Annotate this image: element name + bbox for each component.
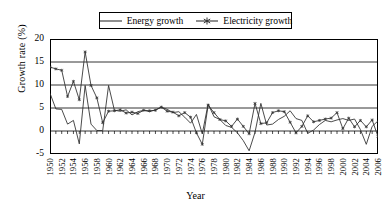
x-tick-label: 2004 — [362, 158, 371, 176]
x-tick-label: 1970 — [163, 158, 172, 176]
x-tick-label: 2006 — [374, 158, 383, 176]
x-tick-label: 1998 — [327, 158, 336, 176]
x-tick-label: 1962 — [116, 158, 125, 176]
x-tick-label: 1980 — [222, 158, 231, 176]
x-tick-label: 1966 — [140, 158, 149, 176]
x-tick-label: 1950 — [46, 158, 55, 176]
x-tick-label: 1992 — [292, 158, 301, 176]
x-tick-label: 1972 — [175, 158, 184, 176]
x-tick-label: 1990 — [280, 158, 289, 176]
x-tick-label: 1974 — [187, 158, 196, 176]
x-tick-label: 1994 — [304, 158, 313, 176]
x-tick-label: 2002 — [351, 158, 360, 176]
x-tick-label: 1956 — [81, 158, 90, 176]
growth-rate-line-chart: Energy growth Electricity growth Growth … — [0, 0, 391, 207]
x-tick-label: 1996 — [315, 158, 324, 176]
x-tick-label: 1964 — [128, 158, 137, 176]
x-tick-label: 1954 — [69, 158, 78, 176]
x-tick-label: 1984 — [245, 158, 254, 176]
x-tick-label: 1968 — [151, 158, 160, 176]
x-tick-label: 1986 — [257, 158, 266, 176]
x-tick-label: 1960 — [105, 158, 114, 176]
x-tick-label: 1976 — [198, 158, 207, 176]
x-tick-label: 1982 — [233, 158, 242, 176]
x-axis-tick-labels: 1950195219541956195819601962196419661968… — [0, 0, 391, 207]
x-tick-label: 1978 — [210, 158, 219, 176]
x-tick-label: 2000 — [339, 158, 348, 176]
x-tick-label: 1988 — [269, 158, 278, 176]
x-axis-title: Year — [0, 190, 391, 201]
x-tick-label: 1952 — [58, 158, 67, 176]
x-tick-label: 1958 — [93, 158, 102, 176]
